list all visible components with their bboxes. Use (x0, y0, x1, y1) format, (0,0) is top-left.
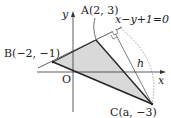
right-angle-box (112, 29, 118, 35)
y-axis-label: y (61, 8, 69, 21)
a-label-leader (94, 18, 96, 39)
point-b (52, 61, 54, 63)
point-c-label: C(a, −3) (110, 106, 157, 118)
height-label: h (137, 57, 144, 70)
point-a-label: A(2, 3) (80, 4, 119, 17)
x-axis-label: x (158, 74, 165, 87)
origin-label: O (62, 73, 71, 86)
y-axis-arrow-icon (71, 11, 75, 17)
point-b-label: B(−2, −1) (4, 47, 60, 60)
line-equation-label: x−y+1=0 (115, 13, 169, 26)
diagram-canvas: y x O A(2, 3) B(−2, −1) C(a, −3) x−y+1=0… (0, 0, 171, 118)
point-c (151, 103, 153, 105)
